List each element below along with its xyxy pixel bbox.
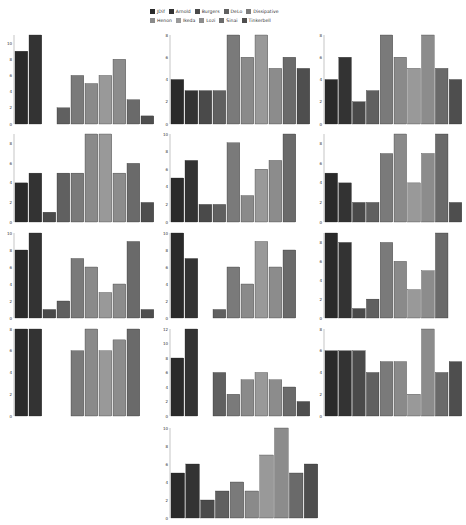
legend-item-sinai: Sinai (219, 16, 237, 25)
y-tick-label: 4 (165, 385, 168, 390)
bar-dissipative (380, 362, 393, 416)
y-tick-label: 0 (165, 122, 168, 127)
bar-dissipative (230, 482, 244, 518)
bar-sinai (127, 242, 140, 319)
bar-dissipative (227, 267, 240, 318)
bar-henon (394, 57, 407, 124)
y-tick-label: 0 (319, 220, 322, 225)
y-tick-label: 6 (319, 55, 322, 60)
y-tick-label: 0 (165, 316, 168, 321)
y-tick-label: 6 (165, 462, 168, 467)
y-tick-label: 4 (9, 89, 12, 94)
legend-swatch (176, 18, 181, 23)
bar-dissipative (380, 154, 393, 222)
bar-chart-panel-11: 024681012 (160, 326, 312, 420)
legend-item-delo: DeLo (224, 7, 243, 16)
bar-burgers (43, 310, 56, 319)
bar-arnold (185, 91, 198, 124)
bar-ikeda (99, 75, 112, 124)
bar-henon (394, 134, 407, 222)
bar-lozi (269, 380, 282, 416)
bar-lozi (269, 267, 282, 318)
bar-delo (366, 373, 379, 417)
y-tick-label: 6 (9, 73, 12, 78)
y-tick-label: 2 (165, 99, 168, 104)
bar-jdif (171, 358, 184, 416)
y-tick-label: 0 (165, 414, 168, 419)
y-tick-label: 10 (163, 426, 169, 431)
bar-ikeda (99, 351, 112, 416)
bar-dissipative (71, 75, 84, 124)
y-tick-label: 8 (165, 248, 168, 253)
bar-ikeda (99, 134, 112, 222)
legend-item-jdif: JDif (150, 7, 165, 16)
bar-henon (241, 196, 254, 222)
legend-swatch (150, 9, 155, 14)
bar-lozi (113, 340, 126, 416)
bar-jdif (171, 80, 184, 125)
bar-arnold (339, 242, 352, 318)
bar-sinai (283, 134, 296, 222)
bar-jdif (325, 80, 338, 125)
y-tick-label: 2 (165, 202, 168, 207)
y-tick-label: 10 (163, 341, 169, 346)
legend-item-tinkerbell: Tinkerbell (242, 16, 271, 25)
bar-henon (85, 84, 98, 124)
y-tick-label: 2 (9, 299, 12, 304)
bar-ikeda (255, 373, 268, 417)
bar-tinkerbell (297, 68, 310, 124)
bar-delo (57, 173, 70, 222)
bar-dissipative (380, 35, 393, 124)
bar-delo (366, 91, 379, 124)
y-tick-label: 0 (319, 414, 322, 419)
bar-dissipative (380, 242, 393, 318)
bar-ikeda (255, 35, 268, 124)
bar-ikeda (99, 293, 112, 319)
bar-jdif (15, 51, 28, 124)
bar-sinai (127, 100, 140, 124)
bar-delo (213, 310, 226, 319)
y-tick-label: 6 (165, 265, 168, 270)
y-tick-label: 6 (165, 167, 168, 172)
bar-henon (245, 491, 259, 518)
bar-lozi (113, 284, 126, 318)
bar-chart-panel-13: 0246810 (160, 425, 320, 522)
bar-tinkerbell (449, 202, 462, 222)
bar-burgers (353, 102, 366, 124)
bar-delo (213, 204, 226, 222)
legend-item-burgers: Burgers (195, 7, 220, 16)
bar-delo (213, 91, 226, 124)
bar-lozi (422, 35, 435, 124)
legend-swatch (195, 9, 200, 14)
bar-ikeda (408, 290, 421, 318)
y-tick-label: 10 (7, 231, 13, 236)
bar-henon (241, 57, 254, 124)
bar-delo (57, 108, 70, 124)
bar-ikeda (408, 68, 421, 124)
bar-chart-panel-1: 0246810 (4, 32, 156, 128)
y-tick-label: 0 (319, 316, 322, 321)
bar-chart-panel-2: 02468 (160, 32, 312, 128)
bar-tinkerbell (141, 310, 154, 319)
y-tick-label: 4 (319, 278, 322, 283)
legend-item-ikeda: Ikeda (176, 16, 195, 25)
bar-henon (85, 329, 98, 416)
bar-arnold (29, 233, 42, 318)
bar-sinai (435, 373, 448, 417)
bar-henon (241, 380, 254, 416)
bar-ikeda (255, 169, 268, 222)
legend-swatch (169, 9, 174, 14)
bar-dissipative (227, 35, 240, 124)
bar-arnold (185, 329, 198, 416)
bar-lozi (113, 59, 126, 124)
bar-henon (394, 362, 407, 416)
bar-tinkerbell (304, 464, 318, 518)
bar-jdif (325, 233, 338, 318)
y-tick-label: 8 (165, 149, 168, 154)
y-tick-label: 8 (319, 240, 322, 245)
legend-item-arnold: Arnold (169, 7, 191, 16)
bar-ikeda (255, 242, 268, 319)
y-tick-label: 2 (165, 498, 168, 503)
legend-item-dissipative: Dissipative (246, 7, 278, 16)
bar-jdif (325, 351, 338, 416)
